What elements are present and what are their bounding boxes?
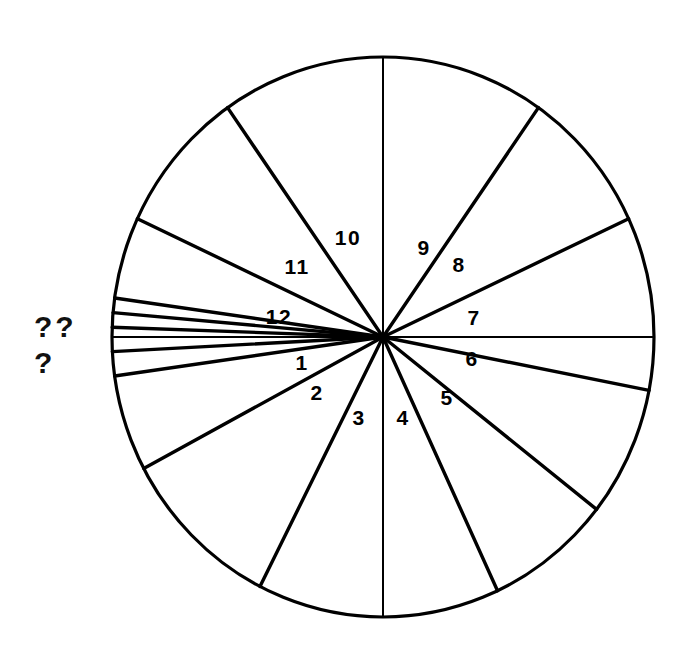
sector-label-2: 2: [310, 381, 323, 404]
unknown-marker-bottom: ?: [34, 346, 55, 379]
sector-label-1: 1: [295, 351, 308, 374]
sector-label-6: 6: [465, 347, 478, 370]
sector-label-9: 9: [417, 236, 430, 259]
sector-label-11: 11: [284, 255, 309, 278]
pie-diagram: 123456789101112 ?? ?: [0, 0, 692, 659]
sector-label-4: 4: [396, 406, 409, 429]
sector-label-3: 3: [352, 406, 365, 429]
sector-label-5: 5: [440, 386, 453, 409]
sector-label-10: 10: [335, 226, 361, 249]
sector-label-7: 7: [467, 306, 480, 329]
diagram-group: 123456789101112 ?? ?: [34, 57, 654, 617]
unknown-marker-top: ??: [34, 310, 77, 343]
figure-page: 123456789101112 ?? ?: [0, 0, 692, 659]
sector-label-12: 12: [266, 305, 292, 328]
sector-label-8: 8: [452, 253, 465, 276]
